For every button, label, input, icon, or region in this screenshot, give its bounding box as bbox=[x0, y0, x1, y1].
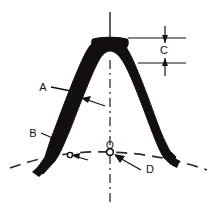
diagram-canvas: C A B O D bbox=[0, 0, 217, 215]
dimension-c-arrowhead-down bbox=[162, 35, 168, 43]
label-d: D bbox=[146, 163, 154, 175]
dimension-c-arrowhead-up bbox=[162, 58, 168, 66]
arch-body-path bbox=[36, 39, 176, 174]
leader-d-arrowhead bbox=[114, 154, 125, 163]
label-c: C bbox=[160, 44, 168, 56]
label-a: A bbox=[39, 81, 47, 93]
label-origin-o: O bbox=[106, 140, 114, 151]
arch-diagram: C A B O D bbox=[0, 0, 217, 215]
arch-shape bbox=[32, 37, 180, 177]
label-b: B bbox=[29, 127, 36, 139]
